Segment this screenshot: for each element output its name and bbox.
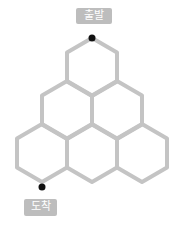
end-label: 도착 — [24, 199, 57, 216]
hexagon-cell — [67, 124, 117, 182]
hexagon-cell — [117, 124, 167, 182]
hexagon-cell — [17, 124, 67, 182]
start-label: 출발 — [76, 8, 112, 24]
start-point-dot — [89, 35, 96, 42]
end-point-dot — [39, 184, 46, 191]
hexagon-grid — [0, 0, 183, 228]
